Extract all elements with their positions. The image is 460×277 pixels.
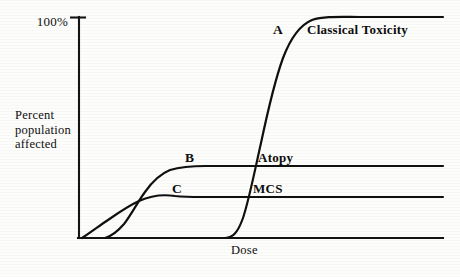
curve-key-c: C <box>172 181 182 197</box>
curve-classical-toxicity <box>225 17 443 238</box>
curve-mcs <box>82 195 443 238</box>
y-axis-title: Percentpopulationaffected <box>15 108 71 152</box>
curve-label-mcs: MCS <box>253 181 283 196</box>
y-axis-title-line-1: Percent <box>15 108 54 122</box>
curve-label-classical-toxicity: Classical Toxicity <box>307 22 408 37</box>
x-axis-title: Dose <box>231 243 258 258</box>
curve-label-atopy: Atopy <box>258 150 293 165</box>
y-axis-title-line-3: affected <box>15 137 57 151</box>
curve-atopy <box>105 166 443 238</box>
curve-key-a: A <box>273 22 283 38</box>
curve-key-b: B <box>185 150 194 166</box>
dose-response-figure: 100% Percentpopulationaffected Dose A Cl… <box>0 0 460 277</box>
y-axis-title-line-2: population <box>15 123 71 137</box>
y-axis-tick-label: 100% <box>16 14 68 29</box>
